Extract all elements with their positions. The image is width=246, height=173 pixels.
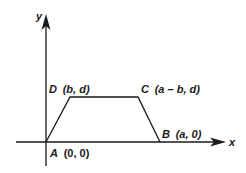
vertex-d-coords: (b, d) xyxy=(63,83,90,95)
vertex-b-coords: (a, 0) xyxy=(176,128,202,140)
vertex-b-letter: B xyxy=(162,128,170,140)
vertex-label-b: B (a, 0) xyxy=(162,128,202,140)
vertex-label-a: A (0, 0) xyxy=(49,147,90,159)
vertex-c-letter: C xyxy=(141,83,150,95)
trapezoid-diagram: y x D (b, d) C (a – b, d) B (a, 0) A (0,… xyxy=(0,0,246,173)
vertex-a-letter: A xyxy=(49,147,58,159)
vertex-a-coords: (0, 0) xyxy=(64,147,90,159)
vertex-d-letter: D xyxy=(49,83,57,95)
vertex-label-d: D (b, d) xyxy=(49,83,90,95)
y-axis-label: y xyxy=(35,10,43,22)
vertex-label-c: C (a – b, d) xyxy=(141,83,200,95)
trapezoid-shape xyxy=(46,97,160,142)
x-axis-label: x xyxy=(228,136,236,148)
vertex-c-coords: (a – b, d) xyxy=(155,83,201,95)
